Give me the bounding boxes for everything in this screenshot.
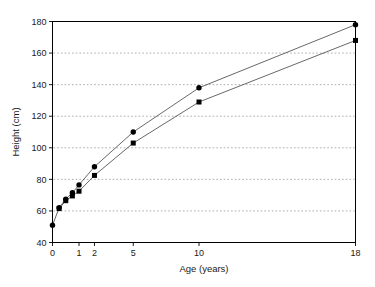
data-point-upper-series-0-4 bbox=[76, 182, 81, 187]
data-point-upper-series-0-0 bbox=[50, 222, 55, 227]
chart-background bbox=[0, 0, 375, 287]
data-point-lower-series-1-6 bbox=[197, 100, 202, 105]
y-tick-label: 160 bbox=[31, 48, 46, 58]
y-tick-label: 60 bbox=[36, 206, 46, 216]
data-point-lower-series-1-3 bbox=[77, 189, 82, 194]
growth-chart: 406080100120140160180 01251018 Height (c… bbox=[0, 0, 375, 287]
data-point-lower-series-1-0 bbox=[57, 206, 62, 211]
x-tick-label: 2 bbox=[92, 248, 97, 258]
y-axis-title: Height (cm) bbox=[10, 107, 21, 156]
x-tick-label: 18 bbox=[350, 248, 360, 258]
x-tick-label: 0 bbox=[50, 248, 55, 258]
data-point-upper-series-0-8 bbox=[353, 22, 358, 27]
y-tick-label: 140 bbox=[31, 80, 46, 90]
y-tick-label: 100 bbox=[31, 143, 46, 153]
x-tick-label: 10 bbox=[194, 248, 204, 258]
data-point-upper-series-0-7 bbox=[196, 85, 201, 90]
x-tick-label: 5 bbox=[131, 248, 136, 258]
data-point-upper-series-0-6 bbox=[131, 129, 136, 134]
data-point-lower-series-1-1 bbox=[63, 198, 68, 203]
data-point-lower-series-1-4 bbox=[92, 173, 97, 178]
y-tick-label: 80 bbox=[36, 175, 46, 185]
x-axis-title: Age (years) bbox=[179, 263, 228, 274]
y-tick-label: 120 bbox=[31, 111, 46, 121]
data-point-lower-series-1-7 bbox=[353, 38, 358, 43]
data-point-upper-series-0-5 bbox=[92, 164, 97, 169]
chart-container: 406080100120140160180 01251018 Height (c… bbox=[0, 0, 375, 287]
data-point-lower-series-1-2 bbox=[70, 193, 75, 198]
y-tick-label: 180 bbox=[31, 17, 46, 27]
data-point-lower-series-1-5 bbox=[131, 141, 136, 146]
y-tick-label: 40 bbox=[36, 238, 46, 248]
x-tick-label: 1 bbox=[77, 248, 82, 258]
